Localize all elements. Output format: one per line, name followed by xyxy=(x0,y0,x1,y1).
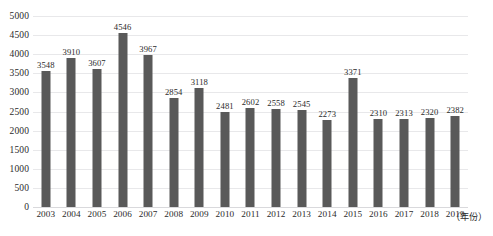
bar-value-label: 3967 xyxy=(139,44,157,54)
x-tick-label: 2009 xyxy=(187,209,213,219)
bar-group: 3371 xyxy=(340,16,366,207)
x-tick-label: 2003 xyxy=(33,209,59,219)
y-tick-label: 2500 xyxy=(10,107,29,117)
bar-group: 2481 xyxy=(212,16,238,207)
bar[interactable] xyxy=(374,119,383,207)
x-tick-label: 2006 xyxy=(110,209,136,219)
bar-value-label: 3371 xyxy=(344,67,362,77)
y-tick-label: 0 xyxy=(24,202,29,212)
bar[interactable] xyxy=(323,120,332,207)
x-tick-label: 2018 xyxy=(417,209,443,219)
x-tick-label: 2012 xyxy=(263,209,289,219)
bar-value-label: 3548 xyxy=(37,60,55,70)
bar[interactable] xyxy=(169,98,178,207)
bar[interactable] xyxy=(118,33,127,207)
bar-group: 2320 xyxy=(417,16,443,207)
y-tick-label: 5000 xyxy=(10,11,29,21)
bar[interactable] xyxy=(348,78,357,207)
y-tick-label: 1000 xyxy=(10,164,29,174)
x-tick-label: 2016 xyxy=(366,209,392,219)
y-axis: 5000450040003500300025002000150010005000 xyxy=(0,0,33,236)
x-tick-label: 2013 xyxy=(289,209,315,219)
bar[interactable] xyxy=(451,116,460,207)
bar-group: 3910 xyxy=(59,16,85,207)
x-axis: 2003200420052006200720082009201020112012… xyxy=(33,209,468,229)
bar-group: 3548 xyxy=(33,16,59,207)
bar-value-label: 2310 xyxy=(370,108,388,118)
y-tick-label: 3000 xyxy=(10,87,29,97)
y-tick-label: 2000 xyxy=(10,126,29,136)
y-tick-label: 3500 xyxy=(10,68,29,78)
bar-group: 2602 xyxy=(238,16,264,207)
bar[interactable] xyxy=(67,58,76,207)
bar-value-label: 4546 xyxy=(114,22,132,32)
x-tick-label: 2017 xyxy=(391,209,417,219)
x-tick-label: 2007 xyxy=(135,209,161,219)
bar-group: 2382 xyxy=(442,16,468,207)
y-tick-label: 4000 xyxy=(10,49,29,59)
bar-group: 2558 xyxy=(263,16,289,207)
bar-group: 3118 xyxy=(187,16,213,207)
bar-chart: 5000450040003500300025002000150010005000… xyxy=(0,0,493,236)
x-tick-label: 2011 xyxy=(238,209,264,219)
bar-value-label: 2558 xyxy=(267,98,285,108)
bar-group: 2310 xyxy=(366,16,392,207)
bar-group: 2545 xyxy=(289,16,315,207)
x-tick-label: 2014 xyxy=(314,209,340,219)
bar-value-label: 2481 xyxy=(216,101,234,111)
y-tick-label: 4500 xyxy=(10,30,29,40)
x-tick-label: 2010 xyxy=(212,209,238,219)
bar[interactable] xyxy=(246,108,255,207)
x-tick-label: 2005 xyxy=(84,209,110,219)
x-tick-label: 2008 xyxy=(161,209,187,219)
bar-group: 2273 xyxy=(314,16,340,207)
bar[interactable] xyxy=(41,71,50,207)
bar-value-label: 2313 xyxy=(395,108,413,118)
bar[interactable] xyxy=(400,119,409,207)
bar-group: 2854 xyxy=(161,16,187,207)
x-axis-title: （年份） xyxy=(451,209,487,223)
bar-value-label: 3910 xyxy=(63,47,81,57)
bar[interactable] xyxy=(272,109,281,207)
plot-area: 3548391036074546396728543118248126022558… xyxy=(33,16,468,207)
x-tick-label: 2015 xyxy=(340,209,366,219)
gridline xyxy=(33,207,468,208)
bar-value-label: 2545 xyxy=(293,99,311,109)
bar-group: 4546 xyxy=(110,16,136,207)
bar-value-label: 2273 xyxy=(318,109,336,119)
y-tick-label: 1500 xyxy=(10,145,29,155)
bar-value-label: 2854 xyxy=(165,87,183,97)
bar-value-label: 3118 xyxy=(191,77,208,87)
bar[interactable] xyxy=(144,55,153,207)
bar-group: 2313 xyxy=(391,16,417,207)
bar-value-label: 2382 xyxy=(446,105,464,115)
bar-value-label: 2602 xyxy=(242,97,260,107)
x-tick-label: 2004 xyxy=(59,209,85,219)
bar-group: 3967 xyxy=(135,16,161,207)
bar[interactable] xyxy=(220,112,229,207)
bar-group: 3607 xyxy=(84,16,110,207)
bar[interactable] xyxy=(425,118,434,207)
bar-value-label: 3607 xyxy=(88,58,106,68)
bar[interactable] xyxy=(297,110,306,207)
bar[interactable] xyxy=(92,69,101,207)
bar-value-label: 2320 xyxy=(421,107,439,117)
bar[interactable] xyxy=(195,88,204,207)
y-tick-label: 500 xyxy=(14,183,29,193)
